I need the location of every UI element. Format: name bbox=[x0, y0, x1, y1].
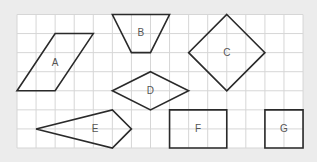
shape-label: G bbox=[280, 123, 288, 134]
shape-label: C bbox=[223, 47, 230, 58]
shape-label: E bbox=[92, 123, 99, 134]
shape-label: A bbox=[52, 57, 59, 68]
shapes-grid-diagram: ABCDEFG bbox=[0, 0, 317, 162]
shape-label: F bbox=[195, 123, 201, 134]
shape-label: D bbox=[147, 85, 154, 96]
shape-label: B bbox=[138, 27, 145, 38]
